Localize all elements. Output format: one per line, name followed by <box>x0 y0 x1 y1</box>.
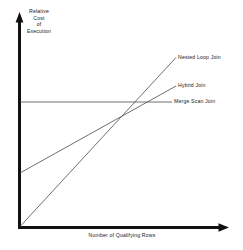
series-line-hybrid-join <box>20 86 176 173</box>
series-label-hybrid-join: Hybrid Join <box>178 82 206 88</box>
x-axis <box>18 223 229 231</box>
y-axis-label-line-2: Cost <box>18 15 60 22</box>
series-label-nested-loop-join: Nested Loop Join <box>178 54 221 60</box>
series-label-merge-scan-join: Merge Scan Join <box>174 98 215 104</box>
join-cost-chart: Relative Cost of Execution Number of Qua… <box>0 0 243 250</box>
x-axis-label: Number of Qualifying Rows <box>62 232 182 239</box>
x-axis-arrowhead <box>219 223 230 231</box>
y-axis-label: Relative Cost of Execution <box>18 8 60 34</box>
y-axis-label-line-3: of <box>18 21 60 28</box>
chart-plot-area <box>0 0 243 250</box>
y-axis-label-line-1: Relative <box>18 8 60 15</box>
y-axis-label-line-4: Execution <box>18 28 60 35</box>
series-line-nested-loop-join <box>20 58 176 227</box>
y-axis <box>16 12 24 228</box>
